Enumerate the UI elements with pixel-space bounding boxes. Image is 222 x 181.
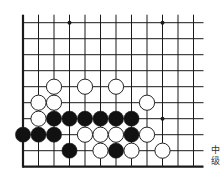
white-stone-icon (46, 95, 61, 110)
white-stone-icon (139, 127, 154, 142)
black-stone-icon (15, 127, 30, 142)
black-stone-icon (62, 143, 77, 158)
white-stone-icon (93, 127, 108, 142)
white-stone-icon (77, 127, 92, 142)
black-stone-icon (77, 111, 92, 126)
white-stone-icon (124, 143, 139, 158)
black-stone-icon (108, 143, 123, 158)
black-stone-icon (46, 127, 61, 142)
black-stone-icon (31, 127, 46, 142)
white-stone-icon (139, 95, 154, 110)
white-stone-icon (93, 143, 108, 158)
star-point-icon (68, 21, 72, 25)
star-point-icon (161, 117, 165, 121)
white-stone-icon (108, 79, 123, 94)
white-stone-icon (31, 111, 46, 126)
black-stone-icon (124, 127, 139, 142)
star-point-icon (161, 21, 165, 25)
white-stone-icon (155, 143, 170, 158)
black-stone-icon (62, 111, 77, 126)
go-board (0, 0, 222, 181)
white-stone-icon (46, 79, 61, 94)
white-stone-icon (31, 95, 46, 110)
white-stone-icon (77, 79, 92, 94)
black-stone-icon (124, 111, 139, 126)
black-stone-icon (108, 111, 123, 126)
level-label-line2: 级 (211, 156, 220, 166)
white-stone-icon (108, 127, 123, 142)
black-stone-icon (46, 111, 61, 126)
black-stone-icon (93, 111, 108, 126)
level-label-line1: 中 (211, 145, 220, 155)
